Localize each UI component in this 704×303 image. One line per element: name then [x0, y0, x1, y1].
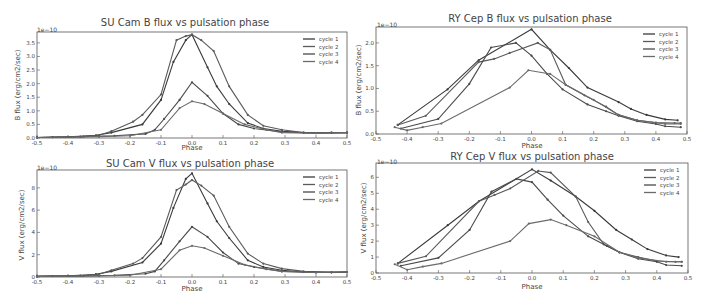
- y-tick-label: 1.5: [26, 94, 35, 100]
- data-point: [509, 240, 511, 242]
- series-line-3: [37, 227, 347, 277]
- x-tick-label: -0.1: [156, 279, 167, 285]
- chart-rycep-v: RY Cep V flux vs pulsation phase 1e−10 -…: [352, 150, 704, 303]
- data-point: [587, 221, 589, 223]
- data-point: [509, 52, 511, 54]
- x-tick-label: 0.0: [528, 275, 537, 281]
- data-point: [394, 126, 396, 128]
- y-tick-label: 8: [32, 185, 36, 191]
- x-tick-label: -0.4: [402, 136, 413, 142]
- data-point: [478, 200, 480, 202]
- data-point: [175, 189, 177, 191]
- data-point: [163, 118, 165, 120]
- data-point: [191, 179, 193, 181]
- data-point: [397, 124, 399, 126]
- data-point: [678, 256, 680, 258]
- chart-svg: RY Cep B flux vs pulsation phase 1e−10 -…: [352, 0, 704, 150]
- data-point: [203, 103, 205, 105]
- data-point: [36, 275, 38, 277]
- data-point: [440, 122, 442, 124]
- data-point: [185, 178, 187, 180]
- data-point: [228, 85, 230, 87]
- legend: cycle 1cycle 2cycle 3cycle 4: [643, 31, 679, 61]
- data-point: [681, 261, 683, 263]
- data-point: [228, 103, 230, 105]
- x-tick-label: 0.2: [589, 136, 598, 142]
- y-tick-label: 2: [371, 238, 375, 244]
- y-tick-label: 3.0: [26, 53, 35, 59]
- legend-label: cycle 2: [319, 44, 338, 51]
- legend-label: cycle 3: [660, 182, 680, 189]
- legend-label: cycle 3: [319, 189, 339, 196]
- data-point: [493, 194, 495, 196]
- legend-label: cycle 4: [659, 54, 679, 61]
- data-point: [593, 210, 595, 212]
- data-point: [253, 127, 255, 129]
- data-point: [206, 202, 208, 204]
- data-point: [206, 95, 208, 97]
- series-line-2: [398, 43, 681, 125]
- legend-label: cycle 2: [659, 39, 678, 46]
- data-point: [617, 101, 619, 103]
- data-point: [247, 259, 249, 261]
- data-point: [129, 135, 131, 137]
- data-point: [562, 88, 564, 90]
- data-point: [132, 121, 134, 123]
- data-point: [191, 172, 193, 174]
- series-line-2: [37, 180, 347, 276]
- legend-label: cycle 3: [319, 51, 339, 58]
- data-point: [550, 218, 552, 220]
- x-tick-label: -0.1: [156, 140, 167, 146]
- data-point: [228, 226, 230, 228]
- chart-sucam-b: SU Cam B flux vs pulsation phase 1e−10 -…: [0, 0, 352, 150]
- y-tick-label: 4: [371, 206, 375, 212]
- y-multiplier: 1e−10: [377, 158, 397, 165]
- y-tick-label: 1.0: [26, 108, 35, 114]
- data-point: [141, 123, 143, 125]
- data-point: [636, 119, 638, 121]
- x-tick-label: 0.4: [652, 136, 661, 142]
- data-point: [179, 107, 181, 109]
- x-tick-label: -0.2: [464, 275, 475, 281]
- legend-label: cycle 1: [319, 36, 338, 43]
- data-point: [680, 123, 682, 125]
- data-point: [315, 132, 317, 134]
- data-point: [191, 100, 193, 102]
- data-point: [425, 115, 427, 117]
- data-point: [593, 235, 595, 237]
- data-point: [406, 269, 408, 271]
- legend-label: cycle 2: [660, 175, 679, 182]
- data-point: [185, 35, 187, 37]
- data-point: [222, 251, 224, 253]
- y-tick-label: 0.5: [26, 121, 35, 127]
- data-point: [406, 129, 408, 131]
- legend-label: cycle 3: [659, 46, 679, 53]
- data-point: [222, 112, 224, 114]
- data-point: [244, 264, 246, 266]
- chart-svg: SU Cam V flux vs pulsation phase 1e−10 -…: [0, 150, 352, 303]
- chart-title: SU Cam B flux vs pulsation phase: [101, 17, 269, 28]
- series-line-3: [37, 82, 347, 137]
- data-point: [191, 34, 193, 36]
- y-axis-label: B flux (erg/cm2/sec): [355, 44, 363, 115]
- data-point: [664, 118, 666, 120]
- y-tick-label: 0.0: [26, 135, 35, 141]
- data-point: [490, 46, 492, 48]
- data-point: [200, 39, 202, 41]
- legend: cycle 1cycle 2cycle 3cycle 4: [303, 174, 339, 204]
- data-point: [586, 103, 588, 105]
- plot-frame: [376, 163, 688, 273]
- x-tick-label: -0.2: [125, 279, 136, 285]
- x-tick-label: 0.2: [250, 279, 259, 285]
- data-point: [141, 261, 143, 263]
- chart-title: RY Cep V flux vs pulsation phase: [450, 151, 614, 162]
- x-tick-label: 0.3: [281, 140, 290, 146]
- data-point: [172, 207, 174, 209]
- data-point: [160, 242, 162, 244]
- data-point: [98, 136, 100, 138]
- y-tick-label: 5: [371, 190, 375, 196]
- legend-label: cycle 4: [319, 59, 339, 66]
- data-point: [509, 86, 511, 88]
- x-tick-label: -0.3: [94, 279, 105, 285]
- data-point: [646, 248, 648, 250]
